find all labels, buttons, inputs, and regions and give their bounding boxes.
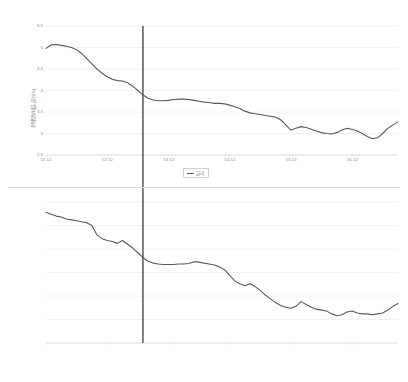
x-axis-tick-label: '15.12 [285, 157, 297, 162]
x-axis-tick-label: '14.12 [224, 157, 236, 162]
x-axis-tick-label: '13.12 [162, 157, 174, 162]
legend-label-top: 금리 [196, 170, 204, 176]
y-axis-tick-label: 5.5 [29, 23, 43, 28]
x-axis-tick-label: '12.12 [101, 157, 113, 162]
y-axis-tick-label: 5 [29, 45, 43, 50]
chart-panel-bottom: 예금은행수신금리(%) 금리 43.532.521.51'11.12'12.12… [0, 188, 408, 382]
x-axis-tick-label: '11.12 [40, 157, 52, 162]
y-axis-tick-label: 4 [29, 88, 43, 93]
chart-legend-top[interactable]: 금리 [183, 168, 209, 178]
chart-panel-top: 주택담보대출금리(%) 금리 5.554.543.532.5'11.12'12.… [0, 0, 408, 187]
x-axis-tick-label: '16.12 [346, 157, 358, 162]
legend-line-swatch-top [187, 173, 194, 174]
y-axis-tick-label: 3.5 [29, 109, 43, 114]
y-axis-tick-label: 4.5 [29, 66, 43, 71]
line-chart-bottom [0, 188, 408, 382]
chart-page: 주택담보대출금리(%) 금리 5.554.543.532.5'11.12'12.… [0, 0, 408, 382]
y-axis-tick-label: 3 [29, 131, 43, 136]
